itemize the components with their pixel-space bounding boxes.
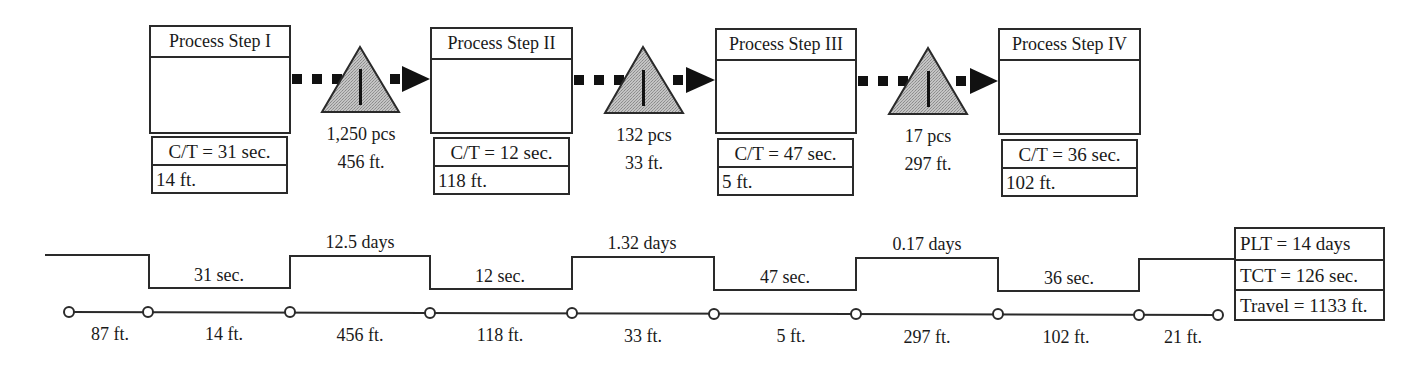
process-time-label: 12 sec. — [475, 266, 525, 286]
process-title: Process Step IV — [1000, 30, 1139, 61]
node-icon — [143, 307, 153, 317]
process-box-4: Process Step IV — [998, 28, 1141, 135]
process-title: Process Step II — [432, 29, 571, 60]
wait-time-label: 1.32 days — [608, 233, 677, 253]
process-box-1: Process Step I — [149, 25, 291, 134]
data-box-3: C/T = 47 sec. 5 ft. — [717, 138, 854, 196]
arrowhead-icon — [686, 67, 715, 93]
arrowhead-icon — [970, 68, 998, 94]
process-box-3: Process Step III — [715, 28, 857, 134]
segment-distance: 5 ft. — [777, 326, 806, 346]
node-icon — [709, 309, 719, 319]
segment-distance: 456 ft. — [337, 325, 384, 345]
wait-time-label: 12.5 days — [326, 232, 395, 252]
step-distance: 5 ft. — [719, 168, 852, 195]
data-box-2: C/T = 12 sec. 118 ft. — [433, 137, 570, 195]
segment-distance: 297 ft. — [904, 327, 951, 347]
data-box-4: C/T = 36 sec. 102 ft. — [1001, 139, 1138, 197]
arrowhead-icon — [402, 66, 430, 92]
step-distance: 14 ft. — [153, 166, 286, 193]
process-time-label: 36 sec. — [1044, 268, 1094, 288]
inventory-distance: 456 ft. — [338, 152, 385, 172]
node-icon — [285, 307, 295, 317]
node-icon — [1213, 310, 1223, 320]
data-box-1: C/T = 31 sec. 14 ft. — [151, 136, 288, 194]
segment-distance: 118 ft. — [477, 325, 523, 345]
node-icon — [993, 309, 1003, 319]
node-icon — [567, 308, 577, 318]
total-travel: Travel = 1133 ft. — [1236, 289, 1383, 319]
distance-line — [64, 307, 1223, 320]
wait-time-label: 0.17 days — [893, 234, 962, 254]
process-time-label: 31 sec. — [194, 265, 244, 285]
inventory-quantity: 1,250 pcs — [327, 124, 396, 144]
process-box-2: Process Step II — [430, 27, 573, 134]
node-icon — [425, 308, 435, 318]
process-title: Process Step III — [717, 30, 855, 61]
inventory-quantity: 132 pcs — [616, 125, 672, 145]
summary-box: PLT = 14 days TCT = 126 sec. Travel = 11… — [1234, 227, 1385, 321]
total-cycle-time: TCT = 126 sec. — [1236, 259, 1383, 289]
cycle-time: C/T = 12 sec. — [435, 139, 568, 167]
segment-distance: 14 ft. — [205, 324, 243, 344]
process-title: Process Step I — [151, 27, 289, 58]
node-icon — [1134, 310, 1144, 320]
inventory-quantity: 17 pcs — [905, 126, 952, 146]
cycle-time: C/T = 31 sec. — [153, 138, 286, 166]
node-icon — [851, 309, 861, 319]
node-icon — [64, 307, 74, 317]
inventory-distance: 297 ft. — [905, 154, 952, 174]
segment-distance: 102 ft. — [1043, 327, 1090, 347]
segment-distance: 21 ft. — [1164, 327, 1202, 347]
step-distance: 102 ft. — [1003, 169, 1136, 196]
production-lead-time: PLT = 14 days — [1236, 229, 1383, 259]
segment-distance: 87 ft. — [91, 324, 129, 344]
step-distance: 118 ft. — [435, 167, 568, 194]
cycle-time: C/T = 47 sec. — [719, 140, 852, 168]
inventory-distance: 33 ft. — [625, 153, 663, 173]
process-time-label: 47 sec. — [760, 267, 810, 287]
cycle-time: C/T = 36 sec. — [1003, 141, 1136, 169]
segment-distance: 33 ft. — [624, 326, 662, 346]
